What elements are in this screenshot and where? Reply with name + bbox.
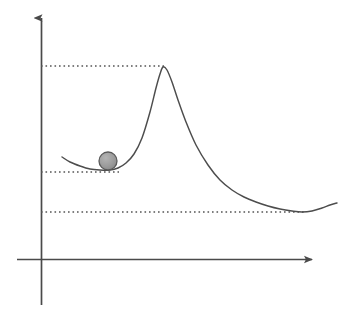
axes-group [17,18,312,305]
figure-canvas [0,0,357,322]
ball-marker [99,152,117,170]
potential-energy-curve [62,67,337,212]
energy-landscape-diagram [0,0,357,322]
ball-marker-group [99,152,117,170]
curve-group [62,67,337,212]
